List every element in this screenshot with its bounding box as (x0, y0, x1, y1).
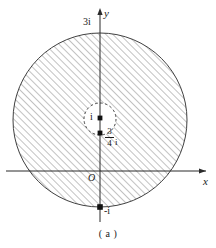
figure-caption: ( a ) (0, 228, 216, 239)
imaginary-unit: i (115, 137, 118, 148)
point-marker-i (98, 116, 103, 121)
point-marker-minus-i (97, 204, 103, 210)
fraction-denominator: 4 (106, 139, 113, 148)
tick-label-3i: 3i (83, 17, 91, 27)
point-label-three-quarters-i: 3 4 i (105, 127, 118, 148)
figure-root: y x 3i i -i O 3 4 i ( a ) (0, 0, 216, 248)
point-marker-three-quarters-i (98, 131, 103, 136)
fraction-numerator: 3 (106, 127, 113, 136)
fraction: 3 4 (105, 127, 114, 148)
origin-label: O (88, 173, 95, 183)
point-label-i: i (90, 112, 93, 122)
x-axis-label: x (203, 176, 208, 187)
y-axis-label: y (104, 8, 109, 19)
point-label-minus-i: -i (104, 206, 110, 216)
